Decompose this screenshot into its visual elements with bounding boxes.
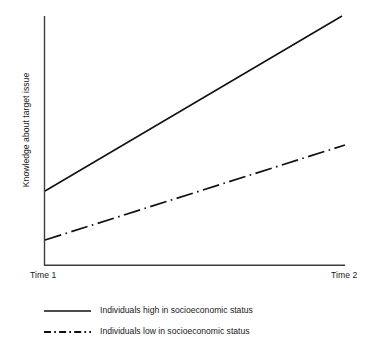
y-axis-title: Knowledge about target issue [21, 5, 35, 255]
chart-figure: Knowledge about target issue Time 1 Time… [0, 0, 377, 352]
chart-legend: Individuals high in socioeconomic status… [44, 300, 364, 342]
x-axis-label-start: Time 1 [30, 270, 56, 280]
x-axis-label-end: Time 2 [331, 270, 357, 280]
legend-item-low-ses: Individuals low in socioeconomic status [44, 321, 364, 342]
legend-item-high-ses: Individuals high in socioeconomic status [44, 300, 364, 321]
legend-label-low-ses: Individuals low in socioeconomic status [100, 327, 250, 336]
series-line-low-ses [45, 145, 345, 240]
legend-swatch-dashdot-icon [44, 327, 91, 337]
series-line-high-ses [45, 16, 342, 191]
legend-swatch-solid-icon [44, 306, 91, 316]
legend-label-high-ses: Individuals high in socioeconomic status [100, 306, 253, 315]
